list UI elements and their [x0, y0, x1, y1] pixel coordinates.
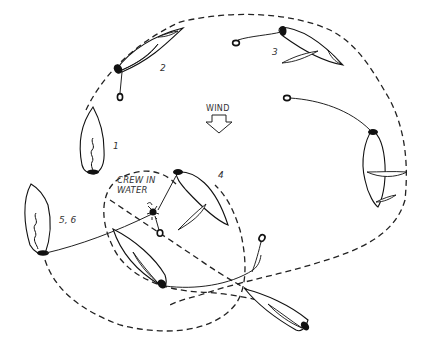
boat-position-1: [80, 107, 104, 175]
boat-position-3: [233, 26, 343, 65]
label-position-3: 3: [272, 48, 278, 57]
crew-in-water-icon: [147, 203, 163, 237]
wind-arrow-icon: [206, 115, 232, 133]
boat-position-2: [112, 28, 183, 100]
boat-position-lower-right: [245, 289, 311, 332]
man-overboard-diagram: 2 3 1 4 5, 6 WIND CREW IN WATER: [0, 0, 434, 348]
label-position-2: 2: [160, 64, 166, 73]
crew-in-water-label: CREW IN WATER: [117, 175, 156, 195]
wind-label: WIND: [206, 105, 230, 113]
boat-position-right: [284, 95, 407, 207]
label-position-1: 1: [113, 142, 119, 151]
label-position-5-6: 5, 6: [59, 216, 76, 225]
diagram-canvas: [0, 0, 434, 348]
crew-label-line-1: CREW IN: [117, 175, 156, 185]
label-position-4: 4: [218, 171, 224, 180]
boat-position-lower-center: [113, 229, 266, 290]
crew-label-line-2: WATER: [117, 185, 156, 195]
